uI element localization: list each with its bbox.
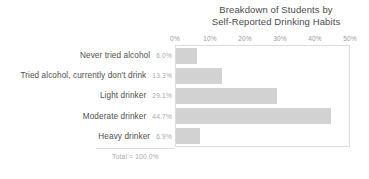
category-name: Tried alcohol, currently don't drink (20, 71, 146, 80)
category-label-row: Tried alcohol, currently don't drink13.3… (0, 65, 172, 85)
chart-title-line-2: Self-Reported Drinking Habits (188, 16, 364, 28)
category-name: Moderate drinker (83, 112, 147, 121)
bar-row (176, 66, 349, 86)
chart-title: Breakdown of Students by Self-Reported D… (188, 4, 364, 28)
x-tick-label: 0% (170, 35, 180, 42)
plot-area (175, 45, 350, 147)
bar-row (176, 46, 349, 66)
category-label-row: Heavy drinker6.9% (0, 127, 172, 147)
category-label-row: Never tried alcohol6.0% (0, 45, 172, 65)
x-tick-label: 40% (308, 35, 322, 42)
bar-row (176, 86, 349, 106)
bar (176, 88, 277, 104)
x-tick-label: 30% (273, 35, 287, 42)
bar (176, 108, 331, 124)
bar (176, 68, 222, 84)
category-value: 13.3% (152, 72, 172, 79)
category-value: 44.7% (152, 113, 172, 120)
category-label-row: Light drinker29.1% (0, 86, 172, 106)
chart-title-line-1: Breakdown of Students by (188, 4, 364, 16)
category-label-column: Never tried alcohol6.0%Tried alcohol, cu… (0, 45, 172, 147)
bars-container (176, 46, 349, 146)
category-value: 6.0% (156, 52, 172, 59)
category-name: Heavy drinker (98, 132, 150, 141)
category-value: 29.1% (152, 92, 172, 99)
bar (176, 48, 197, 64)
bar (176, 128, 200, 144)
chart-container: Breakdown of Students by Self-Reported D… (0, 0, 369, 179)
label-axis-rule (96, 148, 175, 149)
x-tick-label: 50% (343, 35, 357, 42)
category-name: Light drinker (100, 91, 146, 100)
category-label-row: Moderate drinker44.7% (0, 106, 172, 126)
x-tick-label: 10% (203, 35, 217, 42)
bar-row (176, 106, 349, 126)
category-value: 6.9% (156, 133, 172, 140)
x-tick-label: 20% (238, 35, 252, 42)
category-name: Never tried alcohol (80, 51, 150, 60)
total-annotation: Total = 100.0% (96, 153, 175, 160)
bar-row (176, 126, 349, 146)
x-axis-tick-labels: 0%10%20%30%40%50% (175, 35, 350, 45)
